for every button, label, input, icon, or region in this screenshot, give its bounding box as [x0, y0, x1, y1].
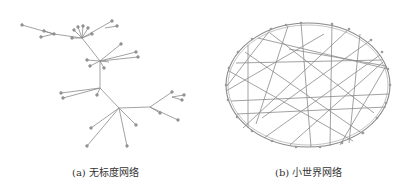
caption-small-world: (b) 小世界网络	[275, 164, 342, 179]
small-world-network-panel: (b) 小世界网络	[205, 0, 409, 183]
scale-free-network-graph	[0, 0, 205, 183]
scale-free-network-panel: (a) 无标度网络	[0, 0, 205, 183]
caption-scale-free: (a) 无标度网络	[72, 164, 139, 179]
small-world-network-graph	[205, 0, 409, 183]
